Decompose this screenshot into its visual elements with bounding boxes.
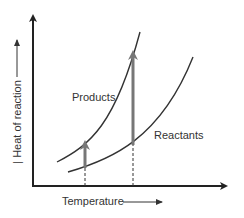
products-label: Products — [72, 91, 115, 103]
diagram-canvas — [0, 0, 244, 218]
heat-of-reaction-diagram: Products Reactants Temperature | Heat of… — [0, 0, 244, 218]
x-axis-label: Temperature — [62, 195, 124, 207]
y-axis-label: | Heat of reaction — [11, 80, 23, 164]
reactants-label: Reactants — [154, 129, 204, 141]
y-axis-text: Heat of reaction — [11, 80, 23, 158]
reactants-curve — [68, 57, 193, 172]
y-axis-prefix: | — [11, 161, 23, 164]
